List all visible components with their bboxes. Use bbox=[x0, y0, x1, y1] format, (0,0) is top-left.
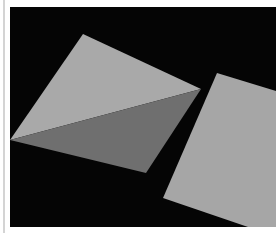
window-frame-divider bbox=[3, 0, 5, 233]
scene-canvas[interactable] bbox=[10, 7, 276, 227]
render-viewport[interactable] bbox=[10, 7, 276, 227]
viewport-bottom-margin bbox=[10, 227, 276, 235]
